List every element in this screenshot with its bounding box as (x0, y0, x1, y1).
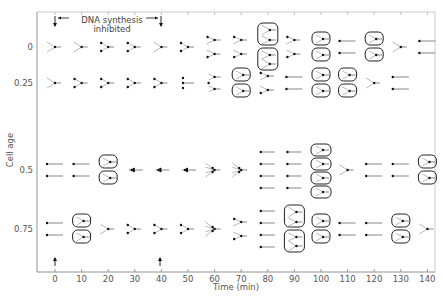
plot-frame (37, 12, 435, 272)
cell-glyph-boxed-pair (392, 214, 410, 243)
cell-glyph-boxed-pair (99, 155, 117, 184)
x-axis-ticks: 0102030405060708090100110120130140 (52, 12, 435, 284)
cell-glyph-layer (46, 23, 437, 252)
cell-glyph-boxed-pair (232, 68, 250, 97)
annotation-line2: inhibited (93, 24, 130, 34)
cell-glyph-boxed-pair-tall (258, 23, 278, 70)
cell-glyph-fork2 (127, 224, 141, 234)
end-arrow-icon (146, 16, 163, 27)
y-tick-label: 0.5 (19, 165, 33, 175)
cell-glyph-double-fork (260, 72, 274, 94)
cell-glyph-boxed-pair (312, 32, 330, 61)
cell-glyph-fork (340, 165, 354, 175)
cell-glyph-boxed-pair (365, 32, 383, 61)
x-tick-label: 130 (393, 274, 409, 284)
cell-glyph-fork (47, 42, 61, 52)
row-age-0-75 (46, 205, 434, 252)
cell-glyph-fork2 (180, 42, 194, 52)
row-age-0-25 (47, 68, 409, 97)
x-tick-label: 90 (289, 274, 300, 284)
cell-glyph-double-line (365, 222, 382, 236)
x-tick-label: 100 (313, 274, 329, 284)
cell-glyph-double-line (338, 40, 355, 54)
cell-glyph-double-fork (233, 218, 247, 240)
y-axis-label: Cell age (5, 133, 15, 167)
y-tick-label: 0 (28, 42, 33, 52)
x-tick-label: 140 (419, 274, 435, 284)
cell-glyph-boxed-pair-tall (284, 205, 304, 252)
cell-glyph-double-line (338, 222, 355, 236)
cell-glyph-fork2 (100, 42, 114, 52)
cell-glyph-dot-line (129, 168, 143, 172)
cell-glyph-double-fork (206, 36, 220, 58)
cell-glyph-quad-line (286, 151, 301, 189)
cell-glyph-triple-fork (207, 74, 220, 92)
cell-glyph-multi-fork (206, 222, 221, 236)
cell-glyph-fork (393, 42, 407, 52)
cell-glyph-double-line (285, 76, 302, 90)
cell-glyph-fork (366, 78, 380, 88)
start-up-arrow-icon (53, 257, 57, 266)
cell-glyph-double-fork (286, 36, 300, 58)
cell-glyph-fork2 (127, 42, 141, 52)
cell-glyph-double-fork (233, 36, 247, 58)
cell-glyph-fork2 (73, 78, 87, 88)
cell-glyph-double-line (72, 163, 89, 177)
cell-glyph-fork2 (100, 78, 114, 88)
x-tick-label: 30 (129, 274, 140, 284)
cell-glyph-fork (419, 224, 433, 234)
cell-glyph-multi-fork (232, 163, 247, 177)
cell-glyph-double-line (392, 76, 409, 90)
cell-glyph-fork (153, 42, 167, 52)
cell-cycle-figure: 0102030405060708090100110120130140 00.25… (0, 0, 443, 298)
x-tick-label: 120 (366, 274, 382, 284)
row-age-0-5 (46, 144, 437, 198)
cell-glyph-double-line (418, 40, 435, 54)
cell-glyph-double-line (365, 163, 382, 177)
cell-glyph-fork2 (180, 224, 194, 234)
cell-glyph-fork2 (153, 224, 167, 234)
y-tick-label: 0.75 (14, 224, 33, 234)
cell-glyph-fork (100, 224, 114, 234)
cell-glyph-fork (74, 42, 88, 52)
cell-glyph-double-line (392, 163, 409, 177)
cell-glyph-triple-line (182, 77, 194, 89)
cell-glyph-boxed-pair (312, 214, 330, 243)
cell-glyph-fork (47, 78, 61, 88)
cell-glyph-fork2 (153, 78, 167, 88)
cell-glyph-dot-line (182, 168, 196, 172)
x-tick-label: 10 (76, 274, 87, 284)
x-tick-label: 110 (339, 274, 355, 284)
x-tick-label: 0 (52, 274, 57, 284)
x-tick-label: 40 (156, 274, 167, 284)
cell-glyph-double-line (46, 163, 63, 177)
end-up-arrow-icon (158, 257, 162, 266)
x-tick-label: 80 (262, 274, 273, 284)
y-axis-ticks: 00.250.50.75 (14, 42, 33, 234)
x-tick-label: 20 (103, 274, 114, 284)
cell-glyph-double-line (46, 222, 63, 236)
cell-glyph-dot-line (155, 168, 169, 172)
cell-glyph-boxed-quad (311, 144, 331, 198)
x-axis-label: Time (min) (212, 282, 259, 292)
start-arrow-icon (53, 16, 69, 27)
cell-glyph-boxed-pair (339, 68, 357, 97)
cell-glyph-boxed-pair (312, 68, 330, 97)
cell-glyph-fork2 (127, 78, 141, 88)
cell-glyph-multi-fork (206, 163, 221, 177)
x-tick-label: 50 (183, 274, 194, 284)
y-tick-label: 0.25 (14, 78, 33, 88)
cell-glyph-boxed-pair (418, 155, 436, 184)
cell-glyph-boxed-pair (73, 214, 91, 243)
cell-glyph-quad-line (260, 151, 275, 189)
cell-glyph-quad-line (260, 210, 275, 248)
